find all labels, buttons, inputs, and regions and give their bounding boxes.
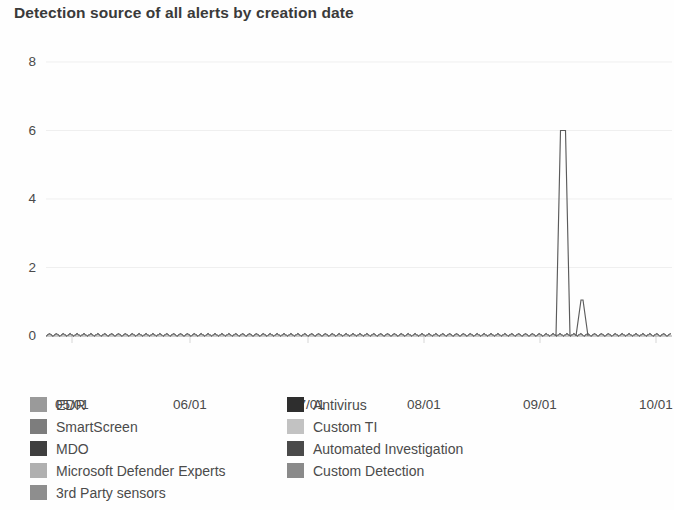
y-axis-tick-label: 8: [10, 55, 36, 69]
legend-item-label: EDR: [56, 398, 86, 412]
series-line: [576, 300, 588, 336]
legend-color-swatch: [287, 463, 304, 478]
legend-color-swatch: [30, 441, 47, 456]
legend-item-label: SmartScreen: [56, 420, 138, 434]
series-line: [556, 131, 570, 337]
legend-item[interactable]: SmartScreen: [30, 416, 226, 437]
legend-color-swatch: [30, 463, 47, 478]
chart-legend: EDRSmartScreenMDOMicrosoft Defender Expe…: [0, 394, 674, 510]
legend-color-swatch: [287, 441, 304, 456]
legend-color-swatch: [287, 397, 304, 412]
legend-item[interactable]: Antivirus: [287, 394, 463, 415]
chart-plot-area: 02468 05/0106/0107/0108/0109/0110/01: [0, 44, 674, 354]
legend-color-swatch: [30, 397, 47, 412]
y-axis-tick-label: 6: [10, 124, 36, 138]
legend-item[interactable]: MDO: [30, 438, 226, 459]
y-axis-tick-label: 2: [10, 261, 36, 275]
legend-item-label: MDO: [56, 442, 89, 456]
legend-item-label: Automated Investigation: [313, 442, 463, 456]
legend-item[interactable]: Automated Investigation: [287, 438, 463, 459]
legend-item-label: Custom TI: [313, 420, 377, 434]
y-axis-tick-label: 4: [10, 192, 36, 206]
legend-item[interactable]: Custom TI: [287, 416, 463, 437]
chart-gridlines: [46, 62, 672, 268]
legend-item-label: Microsoft Defender Experts: [56, 464, 226, 478]
legend-column-left: EDRSmartScreenMDOMicrosoft Defender Expe…: [30, 394, 226, 504]
chart-plot-svg: [0, 44, 674, 354]
chart-title: Detection source of all alerts by creati…: [14, 4, 354, 22]
chart-series-lines: [46, 131, 671, 337]
legend-item[interactable]: Microsoft Defender Experts: [30, 460, 226, 481]
legend-color-swatch: [30, 419, 47, 434]
legend-item[interactable]: 3rd Party sensors: [30, 482, 226, 503]
chart-x-tickmarks: [72, 336, 656, 343]
legend-column-right: AntivirusCustom TIAutomated Investigatio…: [287, 394, 463, 482]
legend-color-swatch: [30, 485, 47, 500]
legend-item[interactable]: Custom Detection: [287, 460, 463, 481]
legend-item-label: Antivirus: [313, 398, 367, 412]
legend-item[interactable]: EDR: [30, 394, 226, 415]
legend-color-swatch: [287, 419, 304, 434]
legend-item-label: 3rd Party sensors: [56, 486, 166, 500]
y-axis-tick-label: 0: [10, 329, 36, 343]
detection-source-chart-card: Detection source of all alerts by creati…: [0, 0, 674, 510]
legend-item-label: Custom Detection: [313, 464, 424, 478]
